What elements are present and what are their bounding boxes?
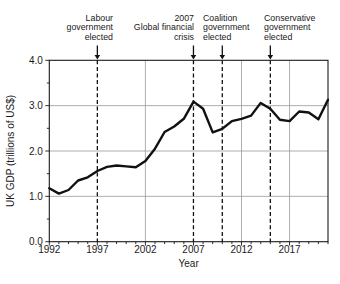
annotation-financial-crisis: 2007 Global financial crisis	[134, 14, 194, 42]
y-tick-label: 0.0	[29, 236, 43, 247]
y-tick-label: 2.0	[29, 146, 43, 157]
x-tick-label: 1997	[86, 244, 109, 255]
y-tick-label: 1.0	[29, 191, 43, 202]
annotation-labour-elected: Labour government elected	[67, 14, 113, 42]
axis-ticks	[45, 60, 328, 245]
x-tick-label: 2002	[134, 244, 157, 255]
x-tick-label: 2007	[182, 244, 205, 255]
x-tick-label: 2012	[230, 244, 253, 255]
gdp-data-line	[49, 100, 328, 194]
y-axis-title: UK GDP (trillions of US$)	[5, 95, 16, 207]
x-axis-title: Year	[179, 258, 200, 269]
event-arrowhead-crisis	[191, 55, 197, 60]
y-tick-label: 4.0	[29, 55, 43, 66]
event-arrowhead-conservative	[268, 55, 274, 60]
event-arrowhead-coalition	[219, 55, 225, 60]
annotation-conservative-elected: Conservative government elected	[264, 14, 315, 42]
uk-gdp-chart-figure: 1992199720022007201220170.01.02.03.04.0Y…	[0, 0, 340, 284]
gdp-line-chart-canvas: 1992199720022007201220170.01.02.03.04.0Y…	[0, 0, 340, 284]
x-tick-label: 2017	[278, 244, 301, 255]
event-arrowhead-labour	[95, 55, 101, 60]
annotation-coalition-elected: Coalition government elected	[203, 14, 249, 42]
y-tick-label: 3.0	[29, 100, 43, 111]
gridlines	[49, 60, 328, 241]
